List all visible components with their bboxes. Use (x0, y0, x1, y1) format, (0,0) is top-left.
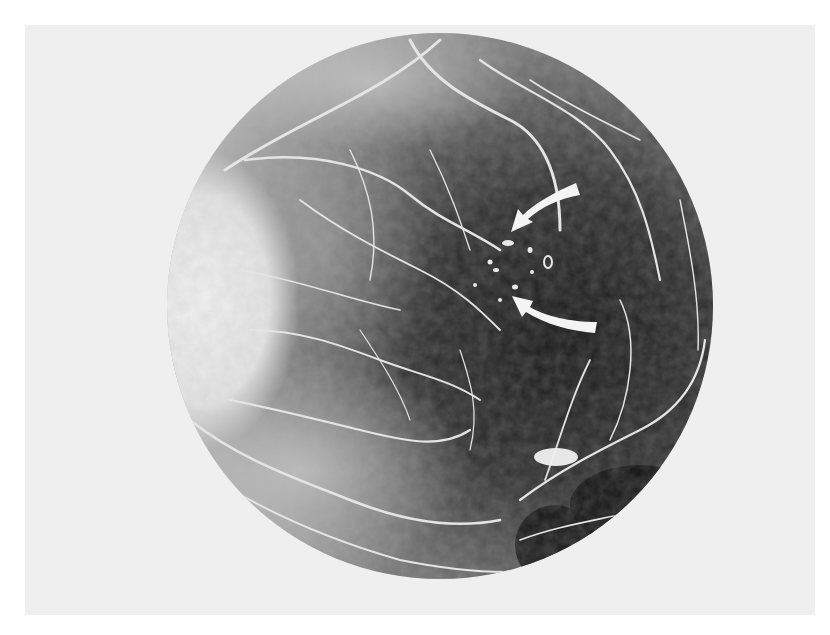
bright-lesion (534, 448, 578, 466)
fundus-angiogram (0, 0, 830, 635)
fundus-disc (100, 10, 720, 590)
